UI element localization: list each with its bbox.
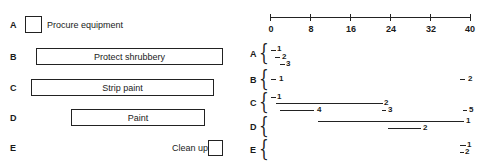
activity-box-c: Strip paint [31, 79, 214, 96]
segment [271, 97, 276, 98]
brace-icon: { [259, 115, 269, 137]
axis-tick-label: 16 [346, 24, 356, 34]
segment [276, 103, 383, 104]
segment [382, 110, 386, 111]
activity-letter-c: C [10, 83, 17, 93]
segment [460, 145, 466, 146]
segment [463, 110, 467, 111]
axis-line [270, 17, 471, 18]
activity-letter-b: B [10, 52, 17, 62]
axis-tick [470, 14, 471, 21]
segment [318, 121, 464, 122]
axis-tick [310, 14, 311, 21]
segment-label: 1 [277, 45, 281, 53]
axis-tick-label: 40 [465, 24, 475, 34]
axis-tick-label: 8 [308, 24, 313, 34]
axis-tick-label: 0 [268, 24, 273, 34]
segment-label: 1 [279, 75, 283, 83]
axis-tick [270, 14, 271, 21]
schedule-letter-e: E [250, 145, 256, 155]
schedule-letter-c: C [250, 98, 257, 108]
segment [275, 57, 280, 58]
activity-box-d: Paint [71, 109, 205, 126]
axis-tick-label: 32 [426, 24, 436, 34]
schedule-letter-b: B [250, 75, 257, 85]
segment-label: 1 [277, 93, 281, 101]
segment-label: 5 [469, 106, 473, 114]
schedule-letter-d: D [250, 122, 257, 132]
segment-label: 2 [423, 124, 427, 132]
segment-label: 1 [466, 117, 470, 125]
activity-label-e: Clean up [172, 143, 208, 153]
activity-box-a [25, 16, 42, 33]
segment-label: 3 [286, 60, 290, 68]
activity-label-d: Paint [128, 113, 149, 123]
segment-label: 3 [388, 106, 392, 114]
segment-label: 4 [317, 106, 321, 114]
activity-label-b: Protect shrubbery [94, 52, 165, 62]
activity-label-a: Procure equipment [47, 20, 123, 30]
brace-icon: { [259, 138, 269, 160]
segment [280, 110, 314, 111]
segment-label: 2 [465, 148, 469, 156]
activity-letter-d: D [10, 113, 17, 123]
brace-icon: { [259, 68, 269, 90]
activity-letter-e: E [10, 143, 16, 153]
axis-tick [390, 14, 391, 21]
segment [271, 50, 276, 51]
brace-icon: { [259, 42, 269, 64]
axis-tick [350, 14, 351, 21]
activity-box-e [208, 140, 223, 156]
segment-label: 2 [468, 75, 472, 83]
brace-icon: { [259, 91, 269, 113]
segment [460, 79, 465, 80]
segment [271, 79, 276, 80]
segment [460, 152, 464, 153]
activity-letter-a: A [10, 20, 17, 30]
axis-tick [430, 14, 431, 21]
activity-label-c: Strip paint [102, 83, 143, 93]
segment [280, 64, 285, 65]
schedule-letter-a: A [250, 49, 257, 59]
activity-box-b: Protect shrubbery [36, 48, 223, 65]
segment [388, 128, 421, 129]
axis-tick-label: 24 [386, 24, 396, 34]
